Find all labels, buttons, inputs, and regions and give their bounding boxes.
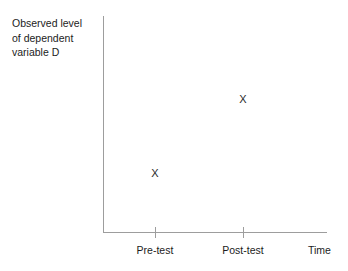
y-axis-label-line-2: of dependent bbox=[12, 31, 98, 46]
y-axis-label-line-3: variable D bbox=[12, 45, 98, 60]
y-axis-label: Observed level of dependent variable D bbox=[12, 16, 98, 60]
x-axis-tick-label-pretest: Pre-test bbox=[137, 244, 174, 257]
y-axis-label-line-1: Observed level bbox=[12, 16, 98, 31]
y-axis-line bbox=[103, 16, 104, 233]
x-axis-tick-pretest bbox=[155, 227, 156, 238]
x-axis-line bbox=[103, 232, 327, 233]
data-point-pretest: X bbox=[151, 168, 158, 179]
chart-figure: Observed level of dependent variable D P… bbox=[0, 0, 348, 271]
data-point-posttest: X bbox=[239, 94, 246, 105]
x-axis-title: Time bbox=[308, 244, 331, 257]
x-axis-tick-label-posttest: Post-test bbox=[222, 244, 263, 257]
x-axis-tick-posttest bbox=[243, 227, 244, 238]
